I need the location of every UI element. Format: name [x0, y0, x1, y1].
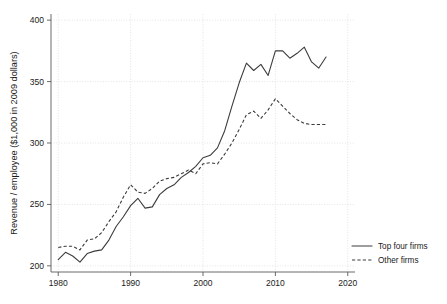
- legend-label: Other firms: [378, 256, 419, 265]
- y-tick-label: 250: [30, 199, 44, 209]
- x-tick-label: 2020: [338, 278, 357, 288]
- x-tick-label: 2010: [266, 278, 285, 288]
- y-axis-title: Revenue / employee ($1,000 in 2009 dolla…: [9, 51, 19, 234]
- legend-label: Top four firms: [378, 242, 428, 251]
- y-tick-label: 350: [30, 77, 44, 87]
- x-tick-label: 2000: [194, 278, 213, 288]
- x-tick-label: 1980: [49, 278, 68, 288]
- chart-container: 200250300350400 19801990200020102020 Rev…: [0, 0, 447, 304]
- y-tick-label: 300: [30, 138, 44, 148]
- y-tick-label: 400: [30, 15, 44, 25]
- x-tick-label: 1990: [121, 278, 140, 288]
- line-chart: 200250300350400 19801990200020102020 Rev…: [0, 0, 447, 304]
- y-tick-label: 200: [30, 261, 44, 271]
